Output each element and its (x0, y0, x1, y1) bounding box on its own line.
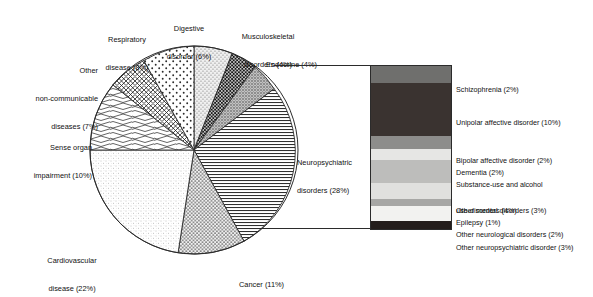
pie-label-sense-organ-impairment: Sense organ impairment (10%) (0, 125, 92, 199)
pie-label-sense-organ-line1: Sense organ (0, 143, 92, 152)
bar-segment-bipolar-affective-disorder[interactable] (371, 136, 451, 149)
pie-label-cancer-line1: Cancer (11%) (239, 280, 329, 289)
pie-label-digestive-disorder-line1: Digestive (152, 24, 226, 33)
pie-label-digestive-disorder-line2: disorder (6%) (152, 52, 226, 61)
legend-label-other-neuropsy-line1: Other neuropsychiatric disorder (3%) (456, 244, 593, 253)
bar-segment-other-neuropsychiatric-disorder[interactable] (371, 221, 451, 229)
callout-connector-bottom (244, 228, 370, 229)
pie-label-digestive-disorder: Digestive disorder (6%) (152, 6, 226, 80)
legend-label-schizophrenia-line1: Schizophrenia (2%) (456, 86, 592, 95)
pie-label-cardiovascular-line1: Cardiovascular (24, 256, 120, 265)
legend-label-other-neuropsychiatric-disorder: Other neuropsychiatric disorder (3%) (456, 226, 593, 270)
pie-label-other-ncd-line2: non-communicable (0, 94, 98, 103)
bar-segment-schizophrenia[interactable] (371, 66, 451, 83)
pie-label-cardiovascular-line2: disease (22%) (24, 284, 120, 293)
pie-label-musculoskeletal-disorders-line1: Musculoskeletal (222, 32, 314, 41)
pie-label-cancer: Cancer (11%) (239, 262, 329, 297)
bar-segment-substance-use-and-alcohol-use-disorders[interactable] (371, 160, 451, 183)
bar-segment-dementia[interactable] (371, 149, 451, 160)
callout-connector-top (274, 65, 370, 66)
pie-label-other-ncd-line1: Other (0, 66, 98, 75)
bar-segment-other-neurological-disorders[interactable] (371, 206, 451, 221)
legend-label-unipolar-line1: Unipolar affective disorder (10%) (456, 119, 592, 128)
neuropsychiatric-breakout-bar (370, 65, 452, 230)
pie-label-sense-organ-line2: impairment (10%) (0, 171, 92, 180)
bar-segment-epilepsy[interactable] (371, 199, 451, 206)
bar-segment-other-mental-disorders[interactable] (371, 183, 451, 199)
bar-segment-unipolar-affective-disorder[interactable] (371, 83, 451, 136)
pie-label-cardiovascular-disease: Cardiovascular disease (22%) (24, 238, 120, 297)
